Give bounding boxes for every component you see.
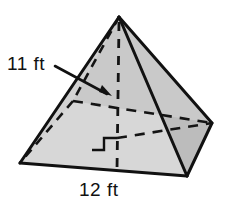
height-label: 11 ft [7,54,45,73]
square-pyramid-figure: 11 ft 12 ft [0,0,229,205]
base-edge-label: 12 ft [79,180,118,199]
pyramid-drawing [0,0,229,205]
hidden-altitude-line [117,22,119,170]
